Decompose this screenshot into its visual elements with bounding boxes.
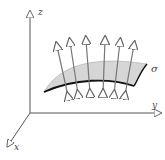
x-axis xyxy=(9,113,30,144)
surface-normal-diagram xyxy=(0,0,165,160)
surface-label: σ xyxy=(151,64,158,74)
y-axis-label: y xyxy=(152,101,157,110)
x-axis-label: x xyxy=(14,143,19,152)
surface-sigma xyxy=(44,61,147,92)
z-axis-label: z xyxy=(38,8,43,17)
